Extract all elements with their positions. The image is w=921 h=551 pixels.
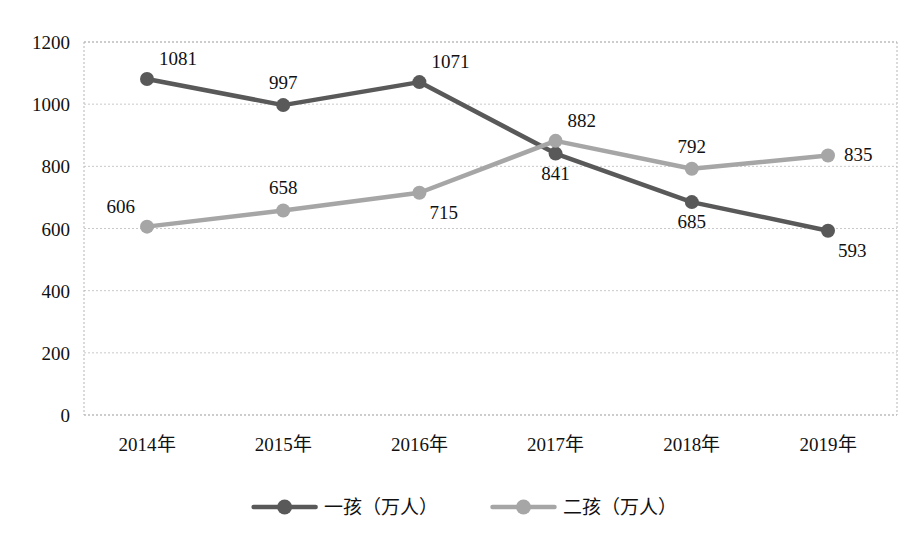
legend-item-1[interactable]: 一孩（万人） bbox=[254, 497, 438, 518]
legend-item-2[interactable]: 二孩（万人） bbox=[493, 497, 677, 518]
x-axis-label-3: 2017年 bbox=[527, 434, 584, 455]
data-point-marker[interactable] bbox=[685, 195, 699, 209]
data-label-s2-2: 715 bbox=[429, 202, 458, 223]
y-tick-label: 0 bbox=[61, 405, 71, 426]
x-axis-category-labels: 2014年2015年2016年2017年2018年2019年 bbox=[119, 434, 857, 455]
data-label-s2-3: 882 bbox=[568, 110, 597, 131]
legend-marker-icon bbox=[277, 500, 292, 515]
y-tick-label: 800 bbox=[42, 156, 71, 177]
y-axis-tick-labels: 020040060080010001200 bbox=[32, 32, 70, 426]
data-label-s1-0: 1081 bbox=[159, 48, 197, 69]
gridlines-group bbox=[84, 42, 897, 415]
data-label-s1-4: 685 bbox=[678, 211, 707, 232]
x-axis-label-2: 2016年 bbox=[391, 434, 448, 455]
data-label-s1-3: 841 bbox=[541, 163, 570, 184]
data-label-s1-1: 997 bbox=[269, 72, 298, 93]
x-axis-label-1: 2015年 bbox=[255, 434, 312, 455]
data-label-s1-2: 1071 bbox=[431, 51, 469, 72]
legend-marker-icon bbox=[516, 500, 531, 515]
series-line-2 bbox=[147, 141, 828, 227]
data-point-marker[interactable] bbox=[685, 162, 699, 176]
y-tick-label: 200 bbox=[42, 343, 71, 364]
legend-label: 一孩（万人） bbox=[324, 497, 438, 518]
x-axis-label-0: 2014年 bbox=[119, 434, 176, 455]
data-point-marker[interactable] bbox=[140, 220, 154, 234]
data-label-s2-4: 792 bbox=[678, 136, 707, 157]
data-point-marker[interactable] bbox=[276, 98, 290, 112]
y-tick-label: 400 bbox=[42, 281, 71, 302]
data-point-marker[interactable] bbox=[276, 203, 290, 217]
data-point-marker[interactable] bbox=[549, 134, 563, 148]
data-point-marker[interactable] bbox=[821, 148, 835, 162]
data-point-marker[interactable] bbox=[412, 75, 426, 89]
data-label-s2-1: 658 bbox=[269, 177, 298, 198]
data-point-marker[interactable] bbox=[549, 147, 563, 161]
data-label-s2-0: 606 bbox=[107, 196, 136, 217]
data-point-marker[interactable] bbox=[412, 186, 426, 200]
legend-label: 二孩（万人） bbox=[563, 497, 677, 518]
y-tick-label: 600 bbox=[42, 219, 71, 240]
chart-container: 020040060080010001200 2014年2015年2016年201… bbox=[0, 0, 921, 551]
y-tick-label: 1000 bbox=[32, 94, 70, 115]
x-axis-label-4: 2018年 bbox=[663, 434, 720, 455]
data-point-marker[interactable] bbox=[140, 72, 154, 86]
data-series-group bbox=[140, 72, 835, 238]
data-point-marker[interactable] bbox=[821, 224, 835, 238]
line-chart: 020040060080010001200 2014年2015年2016年201… bbox=[0, 0, 921, 551]
data-label-s1-5: 593 bbox=[838, 240, 867, 261]
series-line-1 bbox=[147, 79, 828, 231]
chart-legend: 一孩（万人）二孩（万人） bbox=[254, 497, 677, 518]
y-tick-label: 1200 bbox=[32, 32, 70, 53]
data-label-s2-5: 835 bbox=[844, 144, 873, 165]
x-axis-label-5: 2019年 bbox=[800, 434, 857, 455]
